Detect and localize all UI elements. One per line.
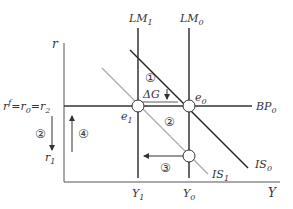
x-axis-label: Y (268, 186, 277, 200)
is-lm-bp-diagram: r Y BP0 IS1 IS0 LM1 LM0 ① ΔG ② ③ (0, 0, 293, 209)
e0-point (183, 100, 195, 112)
delta-g-label: ΔG (142, 88, 160, 101)
step1-marker: ① (145, 71, 156, 85)
bp0-label: BP0 (255, 100, 277, 115)
e1-label: e1 (121, 110, 133, 125)
y-axis-label: r (52, 37, 59, 51)
r1-label: r1 (45, 151, 55, 166)
lm1-label: LM1 (128, 12, 153, 27)
step2-axis-marker: ② (35, 127, 46, 141)
y0-label: Y0 (183, 187, 195, 202)
is1-label: IS1 (211, 168, 229, 183)
step2-curve-marker: ② (164, 115, 175, 129)
is0-label: IS0 (254, 158, 272, 173)
step3-marker: ③ (160, 161, 171, 175)
step4-marker: ④ (78, 127, 89, 141)
intermediate-point (183, 150, 195, 162)
equal-rates-label: rf=r0=r2 (3, 98, 50, 115)
y1-label: Y1 (132, 187, 144, 202)
e0-label: e0 (195, 91, 207, 106)
e1-point (132, 100, 144, 112)
lm0-label: LM0 (179, 12, 204, 27)
